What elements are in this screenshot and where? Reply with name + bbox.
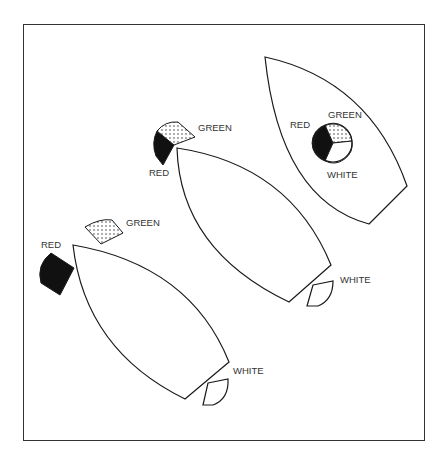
- masthead-light-combined: [312, 123, 352, 163]
- label-white: WHITE: [327, 169, 358, 180]
- navigation-lights-diagram: RED GREEN WHITE GREEN RED WHITE GREEN RE…: [0, 0, 437, 461]
- label-red: RED: [149, 167, 169, 178]
- label-white: WHITE: [340, 274, 371, 285]
- label-white: WHITE: [233, 365, 264, 376]
- label-green: GREEN: [126, 217, 160, 228]
- label-green: GREEN: [328, 109, 362, 120]
- label-red: RED: [41, 239, 61, 250]
- label-red: RED: [290, 119, 310, 130]
- label-green: GREEN: [198, 122, 232, 133]
